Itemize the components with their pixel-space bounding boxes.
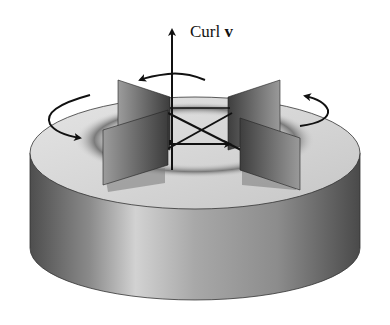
diagram-canvas [0,0,390,325]
curl-v-label: Curl v [190,22,233,42]
curl-label-text: Curl [190,22,220,41]
curl-paddle-wheel-diagram: Curl v [0,0,390,325]
vector-symbol-v: v [224,22,233,41]
